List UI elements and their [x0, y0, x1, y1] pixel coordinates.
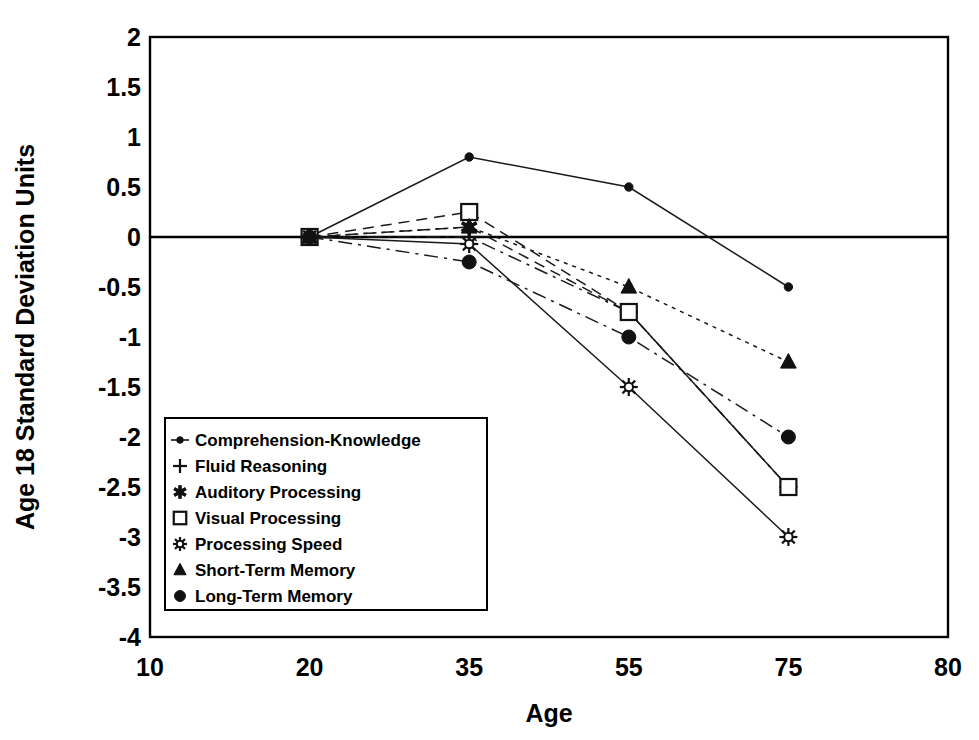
y-tick-label: 1.5	[106, 73, 141, 101]
x-tick-label: 75	[774, 653, 802, 681]
legend-item[interactable]: Comprehension-Knowledge	[171, 431, 421, 450]
legend-item[interactable]: Processing Speed	[173, 535, 342, 554]
marker-open-square	[174, 512, 186, 524]
y-tick-label: -2	[119, 423, 141, 451]
legend-item[interactable]: Long-Term Memory	[175, 587, 353, 606]
y-tick-label: -4	[119, 623, 141, 651]
marker-small-filled-circle	[465, 153, 473, 161]
legend-item-label: Auditory Processing	[195, 483, 361, 502]
x-tick-label: 35	[455, 653, 483, 681]
legend-item-label: Visual Processing	[195, 509, 341, 528]
legend-item-label: Comprehension-Knowledge	[195, 431, 421, 450]
y-tick-label: -2.5	[98, 473, 141, 501]
y-tick-label: -3.5	[98, 573, 141, 601]
marker-small-filled-circle	[784, 283, 792, 291]
marker-small-filled-circle	[177, 437, 184, 444]
marker-filled-circle	[781, 430, 795, 444]
y-tick-label: 1	[127, 123, 141, 151]
y-tick-label: -1	[119, 323, 141, 351]
x-tick-label: 20	[296, 653, 324, 681]
legend-item-label: Short-Term Memory	[195, 561, 356, 580]
x-tick-label: 80	[934, 653, 962, 681]
marker-open-square	[621, 304, 637, 320]
y-tick-label: 0	[127, 223, 141, 251]
chart-container: 21.510.50-0.5-1-1.5-2-2.5-3-3.5-4 102035…	[0, 0, 979, 740]
marker-filled-circle	[175, 591, 186, 602]
x-tick-label: 10	[136, 653, 164, 681]
x-axis-title: Age	[525, 699, 572, 727]
legend: Comprehension-KnowledgeFluid ReasoningAu…	[165, 418, 487, 610]
marker-starburst	[460, 235, 478, 253]
legend-item-label: Long-Term Memory	[195, 587, 353, 606]
legend-item[interactable]: Visual Processing	[174, 509, 341, 528]
legend-item[interactable]: Short-Term Memory	[174, 561, 356, 580]
legend-item-label: Fluid Reasoning	[195, 457, 327, 476]
y-tick-label: -0.5	[98, 273, 141, 301]
x-tick-label: 55	[615, 653, 643, 681]
marker-small-filled-circle	[625, 183, 633, 191]
marker-filled-circle	[303, 230, 317, 244]
legend-item[interactable]: Auditory Processing	[174, 483, 361, 502]
marker-filled-circle	[462, 255, 476, 269]
y-tick-label: -1.5	[98, 373, 141, 401]
line-chart: 21.510.50-0.5-1-1.5-2-2.5-3-3.5-4 102035…	[0, 0, 979, 740]
marker-filled-circle	[622, 330, 636, 344]
marker-open-square	[780, 479, 796, 495]
y-tick-label: 0.5	[106, 173, 141, 201]
y-axis-title: Age 18 Standard Deviation Units	[11, 144, 39, 530]
y-tick-label: -3	[119, 523, 141, 551]
marker-starburst	[779, 528, 797, 546]
legend-item-label: Processing Speed	[195, 535, 342, 554]
marker-starburst	[173, 537, 187, 551]
y-tick-label: 2	[127, 23, 141, 51]
legend-item[interactable]: Fluid Reasoning	[173, 457, 327, 476]
marker-starburst	[620, 378, 638, 396]
